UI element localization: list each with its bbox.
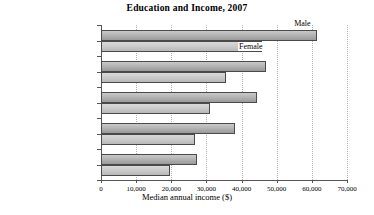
x-axis-label: Median annual income ($)	[0, 192, 374, 202]
gridline	[277, 25, 279, 180]
chart-title: Education and Income, 2007	[0, 3, 374, 13]
y-tickmark-boundary	[97, 149, 101, 150]
y-tickmark-boundary	[97, 118, 101, 119]
bar-male-2	[101, 92, 257, 103]
bar-female-4	[101, 165, 170, 176]
series-annotation-male: Male	[293, 19, 311, 28]
bar-male-3	[101, 123, 235, 134]
education-income-bar-chart: Education and Income, 2007 010,00020,000…	[0, 0, 374, 215]
gridline	[312, 25, 314, 180]
gridline	[347, 25, 349, 180]
x-tickmark	[312, 180, 313, 183]
x-tickmark	[347, 180, 348, 183]
x-tickmark	[206, 180, 207, 183]
x-tickmark	[171, 180, 172, 183]
bar-male-0	[101, 30, 317, 41]
x-tickmark	[277, 180, 278, 183]
plot-area: 010,00020,00030,00040,00050,00060,00070,…	[101, 25, 347, 180]
series-annotation-female: Female	[238, 42, 264, 51]
bar-female-3	[101, 134, 195, 145]
y-tickmark-boundary	[97, 87, 101, 88]
x-tickmark	[136, 180, 137, 183]
y-tickmark-boundary	[97, 56, 101, 57]
bar-female-2	[101, 103, 210, 114]
bar-female-1	[101, 72, 226, 83]
y-tickmark-boundary	[97, 25, 101, 26]
y-tickmark-boundary	[97, 180, 101, 181]
x-tickmark	[101, 180, 102, 183]
x-tickmark	[242, 180, 243, 183]
bar-male-1	[101, 61, 266, 72]
bar-male-4	[101, 154, 197, 165]
